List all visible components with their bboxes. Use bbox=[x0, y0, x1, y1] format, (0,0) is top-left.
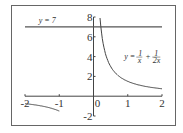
svg-text:2x: 2x bbox=[153, 56, 161, 65]
x-tick-label: -2 bbox=[20, 97, 29, 109]
y-tick-label: 4 bbox=[87, 51, 93, 63]
svg-text:y =: y = bbox=[123, 52, 135, 61]
axes: -2-1012-22468 bbox=[20, 11, 164, 122]
annotation-y7: y = 7 bbox=[38, 16, 57, 25]
x-tick-label: 0 bbox=[95, 97, 101, 109]
y-tick-label: 6 bbox=[87, 31, 93, 43]
y-tick-label: 2 bbox=[87, 70, 93, 82]
labels: y = 7y =1x+12x bbox=[38, 16, 161, 65]
y-tick-label: 8 bbox=[87, 11, 93, 23]
svg-text:+: + bbox=[145, 52, 150, 61]
svg-text:x: x bbox=[137, 56, 142, 65]
x-tick-label: 1 bbox=[125, 97, 131, 109]
chart-canvas: -2-1012-22468 y = 7y =1x+12x bbox=[0, 0, 183, 133]
annotation-curve: y =1x+12x bbox=[123, 49, 161, 65]
x-tick-label: 2 bbox=[159, 97, 165, 109]
y-tick-label: -2 bbox=[83, 110, 92, 122]
x-tick-label: -1 bbox=[55, 97, 64, 109]
